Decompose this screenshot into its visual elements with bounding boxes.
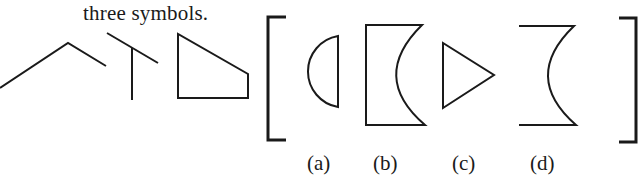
left-bracket: [268, 17, 286, 140]
option-c-label: (c): [452, 150, 475, 176]
given-symbols: [0, 33, 248, 100]
option-a-shape: [308, 36, 338, 107]
trapezoid-symbol: [178, 34, 248, 98]
right-bracket: [619, 18, 636, 142]
option-b-label: (b): [373, 150, 398, 176]
chevron-symbol: [0, 43, 106, 88]
t-shape-symbol: [107, 33, 158, 100]
option-c-shape: [443, 43, 494, 108]
option-a-label: (a): [307, 150, 330, 176]
option-d-label: (d): [530, 150, 555, 176]
option-d-shape: [519, 26, 576, 125]
option-b-shape: [366, 25, 425, 125]
